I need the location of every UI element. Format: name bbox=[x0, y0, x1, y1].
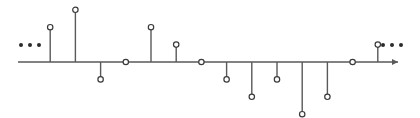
stem-marker bbox=[350, 59, 355, 64]
n-axis-arrowhead bbox=[392, 59, 398, 65]
stem-marker bbox=[98, 77, 103, 82]
stem-marker bbox=[48, 25, 53, 30]
stem-marker bbox=[375, 42, 380, 47]
stem-marker bbox=[148, 25, 153, 30]
stem-marker bbox=[274, 77, 279, 82]
stem-marker bbox=[199, 59, 204, 64]
stem-marker bbox=[73, 7, 78, 12]
stem-marker bbox=[249, 94, 254, 99]
stem-marker bbox=[123, 59, 128, 64]
stem-plot-figure bbox=[0, 0, 420, 118]
stem-marker bbox=[174, 42, 179, 47]
left-continuation-ellipsis bbox=[19, 43, 41, 47]
stem-marker bbox=[224, 77, 229, 82]
stem-marker bbox=[325, 94, 330, 99]
stem-plot-canvas bbox=[0, 0, 420, 118]
right-continuation-ellipsis bbox=[381, 43, 403, 47]
stem-marker bbox=[300, 112, 305, 117]
